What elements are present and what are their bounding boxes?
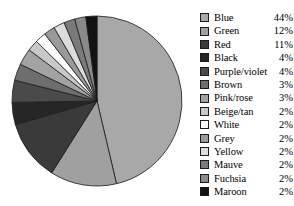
legend-item[interactable]: Green12% — [200, 24, 294, 37]
legend-item-label: Red — [214, 38, 274, 51]
legend-swatch-icon — [200, 107, 209, 116]
legend-item-value: 12% — [274, 24, 294, 37]
legend-item-value: 2% — [279, 105, 294, 118]
legend-item[interactable]: Red11% — [200, 38, 294, 51]
legend-item[interactable]: Purple/violet4% — [200, 65, 294, 78]
legend-swatch-icon — [200, 187, 209, 196]
legend-swatch-icon — [200, 120, 209, 129]
legend-item[interactable]: Black4% — [200, 51, 294, 64]
legend-item-label: Yellow — [214, 145, 279, 158]
chart-legend: Blue44%Green12%Red11%Black4%Purple/viole… — [200, 11, 294, 198]
legend-item-value: 3% — [279, 91, 294, 104]
legend-item-label: Black — [214, 51, 279, 64]
legend-swatch-icon — [200, 134, 209, 143]
legend-swatch-icon — [200, 94, 209, 103]
legend-item[interactable]: Blue44% — [200, 11, 294, 24]
legend-item-label: Mauve — [214, 158, 279, 171]
legend-item-label: Grey — [214, 132, 279, 145]
legend-item[interactable]: Mauve2% — [200, 158, 294, 171]
legend-item-label: Purple/violet — [214, 65, 279, 78]
legend-item-value: 2% — [279, 132, 294, 145]
legend-item[interactable]: Grey2% — [200, 132, 294, 145]
legend-item[interactable]: Pink/rose3% — [200, 91, 294, 104]
legend-item-label: Pink/rose — [214, 91, 279, 104]
legend-swatch-icon — [200, 13, 209, 22]
legend-swatch-icon — [200, 40, 209, 49]
legend-item-label: Beige/tan — [214, 105, 279, 118]
legend-item-value: 4% — [279, 65, 294, 78]
legend-item-value: 2% — [279, 158, 294, 171]
pie-chart-figure: Blue44%Green12%Red11%Black4%Purple/viole… — [0, 0, 294, 206]
legend-item-label: Brown — [214, 78, 279, 91]
pie-chart-plot-area — [0, 0, 196, 206]
legend-swatch-icon — [200, 27, 209, 36]
legend-swatch-icon — [200, 160, 209, 169]
legend-item-value: 2% — [279, 145, 294, 158]
legend-item-value: 2% — [279, 118, 294, 131]
legend-item[interactable]: Fuchsia2% — [200, 172, 294, 185]
legend-swatch-icon — [200, 67, 209, 76]
legend-swatch-icon — [200, 147, 209, 156]
legend-item-value: 2% — [279, 172, 294, 185]
legend-item-label: Fuchsia — [214, 172, 279, 185]
legend-swatch-icon — [200, 174, 209, 183]
legend-item[interactable]: Brown3% — [200, 78, 294, 91]
legend-item-label: Green — [214, 24, 274, 37]
legend-item-value: 11% — [274, 38, 294, 51]
legend-item-value: 44% — [274, 11, 294, 24]
legend-item-label: Maroon — [214, 185, 279, 198]
legend-swatch-icon — [200, 80, 209, 89]
legend-item[interactable]: Maroon2% — [200, 185, 294, 198]
legend-item[interactable]: Yellow2% — [200, 145, 294, 158]
legend-item[interactable]: White2% — [200, 118, 294, 131]
legend-item-label: White — [214, 118, 279, 131]
legend-item-value: 4% — [279, 51, 294, 64]
legend-item-label: Blue — [214, 11, 274, 24]
legend-item-value: 3% — [279, 78, 294, 91]
legend-swatch-icon — [200, 53, 209, 62]
pie-chart-svg — [0, 0, 196, 206]
legend-item-value: 2% — [279, 185, 294, 198]
legend-item[interactable]: Beige/tan2% — [200, 105, 294, 118]
